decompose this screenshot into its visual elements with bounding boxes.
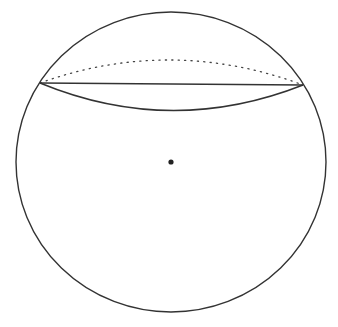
sphere-diagram xyxy=(0,0,338,327)
cross-section-front-edge xyxy=(40,83,303,111)
cross-section-hidden-edge xyxy=(40,60,303,85)
cross-section-diameter xyxy=(40,83,303,85)
center-point xyxy=(168,159,173,164)
